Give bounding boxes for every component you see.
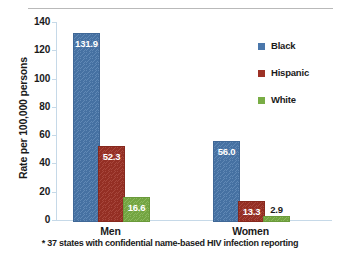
y-axis-tick [52, 50, 57, 51]
chart-footnote: * 37 states with confidential name-based… [0, 238, 340, 248]
bar: 2.9 [263, 216, 290, 222]
legend-swatch-icon [258, 43, 265, 50]
bar: 13.3 [238, 201, 265, 222]
y-axis-tick [52, 163, 57, 164]
bar: 131.9 [73, 33, 100, 222]
y-axis-tick-label: 20 [8, 186, 50, 197]
x-axis-category-label: Men [73, 225, 148, 237]
y-axis-title: Rate per 100,000 persons [17, 33, 29, 203]
bar-value-label: 16.6 [124, 202, 149, 213]
y-axis-tick [52, 107, 57, 108]
y-axis-tick [52, 135, 57, 136]
legend-label: Hispanic [271, 67, 309, 78]
y-axis-tick-label: 100 [8, 73, 50, 84]
y-axis-tick-label: 140 [8, 16, 50, 27]
y-axis-tick [52, 192, 57, 193]
bar-value-label: 13.3 [239, 206, 264, 217]
bar: 52.3 [98, 146, 125, 222]
y-axis-tick-label: 80 [8, 101, 50, 112]
y-axis-tick [52, 79, 57, 80]
legend-swatch-icon [258, 70, 265, 77]
legend-label: Black [271, 40, 295, 51]
bar: 56.0 [213, 141, 240, 222]
y-axis-tick [52, 22, 57, 23]
bar-chart: Rate per 100,000 persons 020406080100120… [0, 0, 340, 255]
y-axis-tick-label: 0 [8, 214, 50, 225]
bar-value-label: 52.3 [99, 151, 124, 162]
legend-swatch-icon [258, 97, 265, 104]
y-axis-tick [52, 220, 57, 221]
bar-value-label: 131.9 [74, 38, 99, 49]
bar-value-label: 56.0 [214, 146, 239, 157]
y-axis-tick-label: 60 [8, 129, 50, 140]
bar: 16.6 [123, 197, 150, 222]
y-axis-tick-label: 40 [8, 157, 50, 168]
x-axis-category-label: Women [213, 225, 288, 237]
legend-label: White [271, 94, 296, 105]
bar-value-label: 2.9 [264, 204, 289, 215]
y-axis-tick-label: 120 [8, 44, 50, 55]
slide-divider-rule [28, 8, 333, 9]
